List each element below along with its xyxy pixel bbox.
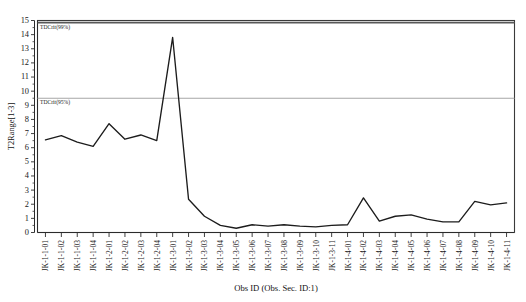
x-tick-label: JK-1-1-02	[57, 240, 66, 271]
x-tick-label: JK-1-2-01	[105, 240, 114, 271]
x-tick-label: JK-1-4-07	[439, 240, 448, 271]
x-tick-label: JK-1-4-08	[455, 240, 464, 271]
tdcrit-99-label: TDCrit(99%)	[40, 24, 70, 31]
x-tick-label: JK-1-4-06	[423, 240, 432, 271]
y-tick-label: 5	[25, 157, 29, 166]
x-tick-label: JK-1-4-03	[375, 240, 384, 271]
x-tick-label: JK-1-3-10	[312, 240, 321, 271]
tdcrit-95-label: TDCrit(95%)	[40, 99, 70, 106]
y-tick-label: 3	[25, 186, 29, 195]
x-tick-label: JK-1-2-02	[121, 240, 130, 271]
x-tick-label: JK-1-1-01	[41, 240, 50, 271]
x-tick-label: JK-1-3-02	[185, 240, 194, 271]
x-tick-label: JK-1-4-02	[359, 240, 368, 271]
x-tick-label: JK-1-4-04	[391, 240, 400, 271]
x-tick-label: JK-1-3-01	[169, 240, 178, 271]
x-tick-label: JK-1-2-04	[153, 240, 162, 271]
x-tick-label: JK-1-4-09	[471, 240, 480, 271]
x-tick-label: JK-1-3-06	[248, 240, 257, 271]
x-axis-title: Obs ID (Obs. Sec. ID:1)	[234, 283, 318, 293]
y-axis-title: T2Range[1-3]	[7, 103, 16, 151]
y-tick-label: 1	[25, 214, 29, 223]
control-chart: 0123456789101112131415TDCrit(99%)TDCrit(…	[0, 0, 526, 302]
x-tick-label: JK-1-3-04	[216, 240, 225, 271]
plot-frame	[38, 21, 515, 233]
y-tick-label: 7	[25, 129, 29, 138]
x-tick-label: JK-1-2-03	[137, 240, 146, 271]
x-tick-label: JK-1-4-10	[487, 240, 496, 271]
x-tick-label: JK-1-1-03	[73, 240, 82, 271]
x-tick-label: JK-1-3-08	[280, 240, 289, 271]
y-tick-label: 10	[21, 87, 29, 96]
y-tick-label: 0	[25, 228, 29, 237]
y-tick-label: 14	[21, 30, 30, 39]
x-tick-label: JK-1-3-03	[200, 240, 209, 271]
x-tick-label: JK-1-4-11	[503, 240, 512, 271]
x-tick-label: JK-1-3-07	[264, 240, 273, 271]
y-tick-label: 6	[25, 143, 29, 152]
chart-canvas: 0123456789101112131415TDCrit(99%)TDCrit(…	[0, 0, 526, 302]
y-tick-label: 15	[21, 16, 29, 25]
y-tick-label: 8	[25, 115, 29, 124]
x-tick-label: JK-1-4-01	[344, 240, 353, 271]
x-tick-label: JK-1-3-05	[232, 240, 241, 271]
y-tick-label: 2	[25, 200, 29, 209]
x-tick-label: JK-1-4-05	[407, 240, 416, 271]
y-tick-label: 11	[21, 72, 29, 81]
y-tick-label: 12	[21, 58, 29, 67]
y-tick-label: 4	[25, 171, 30, 180]
x-tick-label: JK-1-1-04	[89, 240, 98, 271]
y-tick-label: 13	[21, 44, 29, 53]
x-tick-label: JK-1-3-09	[296, 240, 305, 271]
x-tick-label: JK-1-3-11	[328, 240, 337, 271]
y-tick-label: 9	[25, 101, 29, 110]
